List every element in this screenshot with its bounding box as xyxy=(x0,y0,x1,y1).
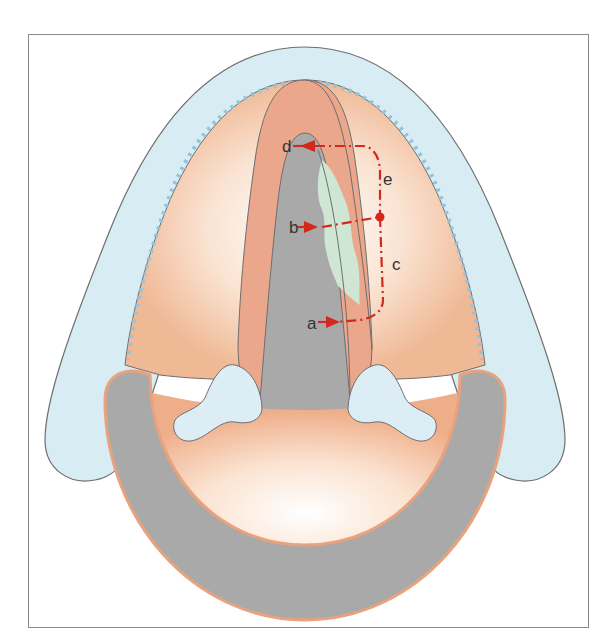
label-c: c xyxy=(392,255,401,274)
label-d: d xyxy=(282,137,291,156)
junction-point xyxy=(376,213,385,222)
label-e: e xyxy=(383,170,392,189)
label-a: a xyxy=(307,314,317,333)
larynx-diagram: d e b c a xyxy=(0,0,606,641)
label-b: b xyxy=(289,218,298,237)
